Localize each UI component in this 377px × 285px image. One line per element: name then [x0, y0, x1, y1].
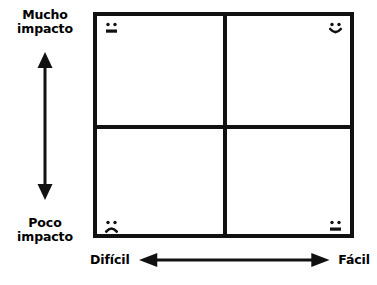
x-axis-arrow — [136, 250, 333, 270]
quadrant-bottom-left[interactable] — [97, 129, 223, 239]
sad-face-icon — [103, 219, 120, 234]
double-headed-horizontal-arrow-icon — [138, 250, 331, 270]
y-axis: Mucho impacto Poco impacto — [0, 6, 90, 246]
x-axis-left-label: Difícil — [90, 253, 130, 267]
neutral-face-icon — [103, 21, 120, 36]
x-axis: Difícil Fácil — [90, 247, 370, 273]
y-axis-arrow — [0, 36, 90, 216]
neutral-face-icon — [327, 219, 344, 234]
impact-effort-matrix: Mucho impacto Poco impacto — [0, 0, 377, 285]
x-axis-right-label: Fácil — [338, 253, 370, 267]
quadrant-top-left[interactable] — [97, 16, 223, 125]
y-axis-bottom-label: Poco impacto — [17, 216, 73, 244]
y-axis-top-label: Mucho impacto — [17, 8, 73, 36]
happy-face-icon — [327, 21, 344, 36]
double-headed-vertical-arrow-icon — [34, 51, 56, 201]
quadrant-bottom-right[interactable] — [227, 129, 350, 239]
matrix-box — [93, 12, 354, 238]
quadrant-top-right[interactable] — [227, 16, 350, 125]
